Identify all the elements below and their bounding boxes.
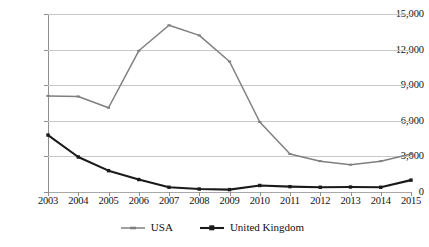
data-point bbox=[77, 155, 80, 158]
legend-swatch-icon bbox=[120, 223, 146, 233]
legend-swatch-icon bbox=[199, 223, 225, 233]
legend-entry-usa[interactable]: USA bbox=[120, 222, 173, 233]
data-point bbox=[46, 133, 49, 136]
data-point bbox=[288, 185, 291, 188]
data-point bbox=[167, 186, 170, 189]
data-point bbox=[409, 178, 412, 181]
x-tick-label: 2015 bbox=[391, 196, 429, 207]
data-point bbox=[349, 185, 352, 188]
x-tick-mark bbox=[381, 192, 382, 196]
data-point bbox=[258, 184, 261, 187]
x-tick-mark bbox=[351, 192, 352, 196]
x-tick-mark bbox=[169, 192, 170, 196]
data-point bbox=[379, 186, 382, 189]
data-point bbox=[198, 187, 201, 190]
series-united-kingdom bbox=[46, 133, 412, 191]
data-point bbox=[137, 178, 140, 181]
x-tick-mark bbox=[78, 192, 79, 196]
x-tick-mark bbox=[260, 192, 261, 196]
series-layer bbox=[48, 14, 412, 192]
x-tick-mark bbox=[109, 192, 110, 196]
plot-area bbox=[48, 14, 412, 192]
x-tick-mark bbox=[230, 192, 231, 196]
chart-legend: USAUnited Kingdom bbox=[0, 222, 424, 233]
series-line bbox=[48, 135, 411, 190]
x-tick-mark bbox=[290, 192, 291, 196]
legend-entry-united-kingdom[interactable]: United Kingdom bbox=[199, 222, 304, 233]
data-point bbox=[319, 186, 322, 189]
x-tick-mark bbox=[411, 192, 412, 196]
legend-label: United Kingdom bbox=[230, 222, 304, 233]
x-tick-mark bbox=[139, 192, 140, 196]
x-tick-mark bbox=[48, 192, 49, 196]
series-line bbox=[48, 25, 411, 164]
legend-label: USA bbox=[151, 222, 173, 233]
series-usa bbox=[46, 25, 412, 164]
x-tick-mark bbox=[320, 192, 321, 196]
x-tick-mark bbox=[199, 192, 200, 196]
data-point bbox=[228, 188, 231, 191]
data-point bbox=[107, 169, 110, 172]
